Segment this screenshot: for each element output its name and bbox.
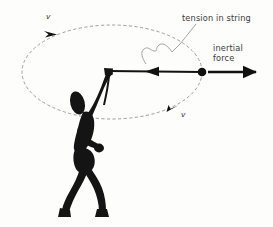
velocity-label-top: v: [46, 12, 51, 21]
inertial-force-label-line1: inertial: [213, 43, 243, 53]
inertial-force-label-line2: force: [213, 53, 234, 63]
velocity-label-bottom: v: [181, 110, 186, 119]
tension-leader-line: [172, 24, 196, 52]
physics-figure: tension in string inertial force v v: [0, 0, 273, 227]
velocity-arrowhead-top: [44, 31, 57, 38]
tension-arrowhead: [145, 67, 159, 76]
tension-label: tension in string: [182, 13, 251, 23]
person-hand: [104, 68, 113, 76]
person-silhouette: [58, 68, 113, 217]
person-fist: [94, 144, 104, 153]
person-back-leg: [62, 168, 88, 212]
tension-leader-curve: [142, 44, 172, 64]
person-front-foot: [95, 209, 109, 217]
person-front-leg: [83, 166, 106, 212]
figure-canvas: tension in string inertial force v v: [0, 0, 273, 227]
velocity-arrowhead-bottom: [167, 105, 179, 112]
ball-mass-dot: [198, 68, 207, 77]
